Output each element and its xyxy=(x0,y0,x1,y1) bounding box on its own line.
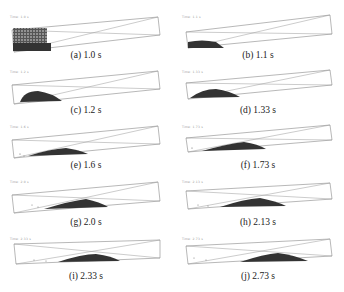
caption: (h) 2.13 s xyxy=(172,217,344,227)
caption: (g) 2.0 s xyxy=(0,217,172,227)
panel-e: Time: 1.6 s (e) 1.6 s xyxy=(0,122,172,179)
time-tag: Time: 1.2 s xyxy=(10,70,29,74)
panel-g: Time: 2.0 s (g) 2.0 s xyxy=(0,177,172,234)
panel-b: Time: 1.1 s (b) 1.1 s xyxy=(172,12,344,69)
panel-d: Time: 1.33 s (d) 1.33 s xyxy=(172,67,344,124)
time-tag: Time: 2.0 s xyxy=(10,180,29,184)
caption: (a) 1.0 s xyxy=(0,50,172,60)
caption: (f) 1.73 s xyxy=(172,160,344,170)
time-tag: Time: 2.13 s xyxy=(182,180,203,184)
panel-h: Time: 2.13 s (h) 2.13 s xyxy=(172,177,344,234)
caption: (e) 1.6 s xyxy=(0,160,172,170)
caption: (j) 2.73 s xyxy=(172,271,344,281)
panel-j: Time: 2.73 s (j) 2.73 s xyxy=(172,234,344,291)
time-tag: Time: 2.73 s xyxy=(182,237,203,241)
panel-f: Time: 1.73 s (f) 1.73 s xyxy=(172,122,344,179)
caption: (i) 2.33 s xyxy=(0,271,172,281)
panel-c: Time: 1.2 s (c) 1.2 s xyxy=(0,67,172,124)
caption: (b) 1.1 s xyxy=(172,50,344,60)
time-tag: Time: 1.0 s xyxy=(10,15,29,19)
caption: (d) 1.33 s xyxy=(172,105,344,115)
time-tag: Time: 1.73 s xyxy=(182,125,203,129)
simulation-snapshot: Time: 2.13 s xyxy=(172,177,344,221)
time-tag: Time: 1.1 s xyxy=(182,15,201,19)
caption: (c) 1.2 s xyxy=(0,105,172,115)
time-tag: Time: 2.33 s xyxy=(10,237,31,241)
panel-i: Time: 2.33 s (i) 2.33 s xyxy=(0,234,172,291)
time-tag: Time: 1.6 s xyxy=(10,125,29,129)
simulation-snapshot: Time: 2.0 s xyxy=(0,177,172,221)
panel-a: Time: 1.0 s (a) 1.0 s xyxy=(0,12,172,69)
snapshot-figure: Time: 1.0 s (a) 1.0 s Time: 1.1 s (b) 1.… xyxy=(0,0,344,292)
time-tag: Time: 1.33 s xyxy=(182,70,203,74)
